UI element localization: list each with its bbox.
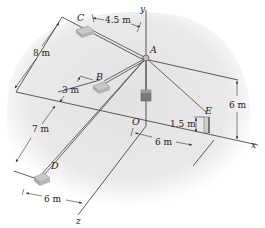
svg-text:8 m: 8 m — [33, 48, 51, 58]
svg-text:1.5 m: 1.5 m — [170, 119, 196, 129]
ring-a — [143, 55, 149, 61]
svg-text:6 m: 6 m — [44, 194, 62, 204]
point-label-a: A — [149, 44, 157, 55]
y-axis-label: y — [139, 4, 146, 14]
svg-text:6 m: 6 m — [229, 100, 247, 110]
point-label-c: C — [77, 12, 85, 23]
point-label-e: E — [204, 105, 212, 116]
x-axis-label: x — [251, 140, 256, 150]
z-axis-label: z — [75, 216, 81, 226]
svg-text:4.5 m: 4.5 m — [105, 15, 131, 25]
anchor-e — [204, 117, 209, 133]
weight-block — [141, 90, 151, 101]
diagram-canvas: y x z A C B — [0, 0, 265, 228]
point-label-b: B — [95, 71, 103, 82]
point-label-o: O — [132, 116, 140, 127]
svg-text:7 m: 7 m — [32, 124, 50, 134]
point-label-d: D — [50, 160, 59, 171]
svg-text:6 m: 6 m — [155, 137, 173, 147]
svg-text:3 m: 3 m — [62, 85, 80, 95]
